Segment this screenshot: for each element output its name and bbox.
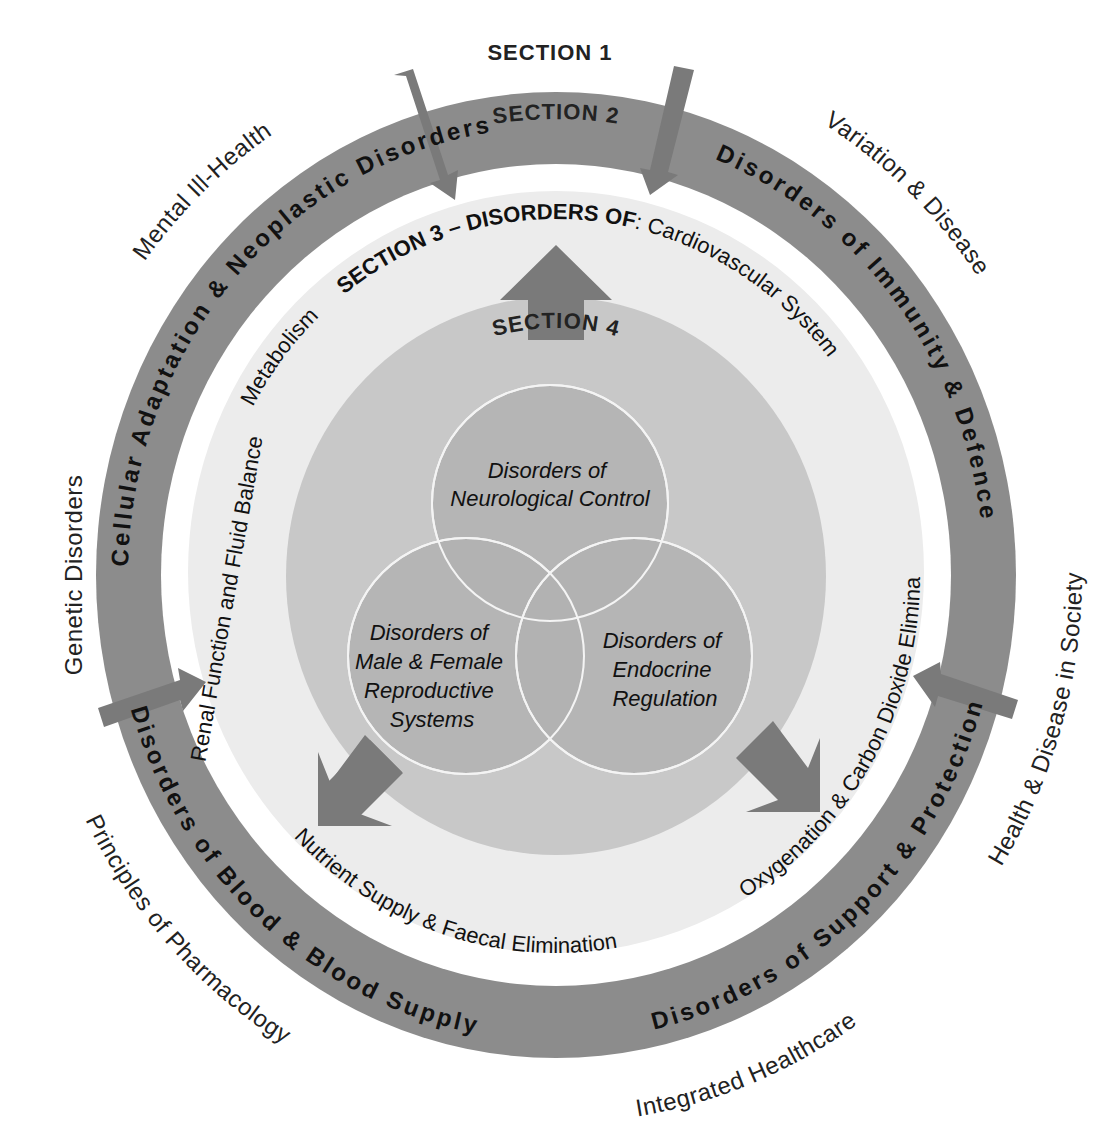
venn-endo-line-1: Disorders of bbox=[603, 628, 724, 653]
venn-neuro-line-1: Disorders of bbox=[488, 458, 609, 483]
course-structure-diagram: SECTION 1 Mental Ill-Health Variation & … bbox=[0, 0, 1100, 1138]
venn-neuro-line-2: Neurological Control bbox=[450, 486, 650, 511]
svg-text:Disorders of Endocrine: Disorders of Endocrine Regulation bbox=[603, 628, 728, 711]
topic-genetic-disorders: Genetic Disorders bbox=[60, 475, 87, 676]
venn-repro-line-1: Disorders of bbox=[370, 620, 491, 645]
venn-repro-line-2: Male & Female bbox=[355, 649, 503, 674]
section-1-title: SECTION 1 bbox=[487, 40, 612, 65]
venn-repro-line-4: Systems bbox=[390, 707, 474, 732]
venn-repro-line-3: Reproductive bbox=[364, 678, 494, 703]
venn-endo-line-3: Regulation bbox=[612, 686, 717, 711]
venn-endo-line-2: Endocrine bbox=[612, 657, 711, 682]
